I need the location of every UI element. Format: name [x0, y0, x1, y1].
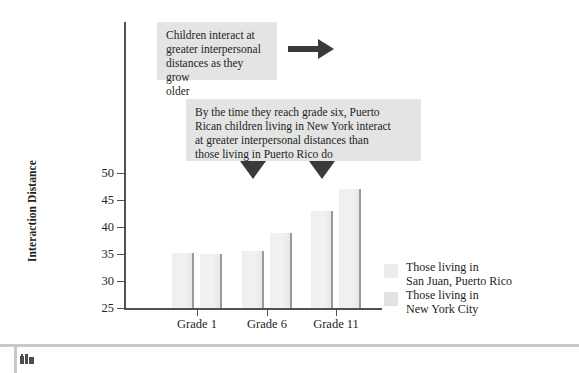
legend-item-san-juan: Those living in San Juan, Puerto Rico — [384, 262, 534, 288]
bar-grade1-san-juan — [172, 253, 194, 308]
page-canvas: Interaction Distance 50 45 40 35 30 25 — [0, 0, 579, 373]
chart-legend: Those living in San Juan, Puerto Rico Th… — [384, 262, 534, 318]
x-tick-mark — [267, 310, 268, 316]
frame-divider-horizontal — [0, 344, 579, 347]
callout-line: greater interpersonal — [166, 42, 269, 56]
y-tick-label: 50 — [88, 167, 114, 179]
callout-line: distances as they grow — [166, 56, 269, 84]
y-tick-mark — [117, 173, 124, 174]
x-tick-label-grade-11: Grade 11 — [296, 317, 376, 332]
callout-box-growth: Children interact at greater interperson… — [157, 22, 277, 80]
y-tick-mark — [117, 227, 124, 228]
callout-box-grade-six: By the time they reach grade six, Puerto… — [186, 99, 421, 161]
bar-grade11-new-york — [339, 189, 361, 308]
bar-grade11-san-juan — [311, 211, 333, 308]
triangle-down-icon — [240, 161, 266, 179]
callout-line: By the time they reach grade six, Puerto — [195, 105, 413, 119]
y-tick-label-wrap: 25 — [88, 302, 114, 314]
y-tick-label: 25 — [88, 302, 114, 314]
frame-divider-vertical — [14, 344, 17, 373]
x-tick-label-grade-6: Grade 6 — [227, 317, 307, 332]
arrow-right-icon — [288, 38, 336, 64]
bar-grade6-new-york — [270, 233, 292, 308]
y-axis-line — [124, 22, 126, 310]
y-tick-label-wrap: 50 — [88, 167, 114, 179]
x-axis-line — [124, 308, 382, 310]
y-tick-label: 30 — [88, 275, 114, 287]
legend-swatch-new-york — [384, 292, 398, 306]
y-tick-label-wrap: 30 — [88, 275, 114, 287]
legend-item-new-york: Those living in New York City — [384, 290, 534, 316]
y-axis-title: Interaction Distance — [26, 146, 38, 276]
y-tick-label: 35 — [88, 248, 114, 260]
y-tick-label: 40 — [88, 221, 114, 233]
callout-line: those living in Puerto Rico do — [195, 147, 413, 161]
bar-grade6-san-juan — [242, 251, 264, 308]
callout-line: at greater interpersonal distances than — [195, 133, 413, 147]
triangle-down-icon — [309, 161, 335, 179]
callout-line: Rican children living in New York intera… — [195, 119, 413, 133]
x-tick-mark — [336, 310, 337, 316]
y-tick-label: 45 — [88, 194, 114, 206]
y-tick-mark — [117, 281, 124, 282]
y-tick-label-wrap: 40 — [88, 221, 114, 233]
callout-line: older — [166, 84, 269, 98]
bar-chart: Interaction Distance 50 45 40 35 30 25 — [0, 0, 579, 344]
legend-swatch-san-juan — [384, 264, 398, 278]
x-tick-label-grade-1: Grade 1 — [157, 317, 237, 332]
legend-label-new-york: Those living in New York City — [406, 289, 479, 316]
y-tick-label-wrap: 35 — [88, 248, 114, 260]
bar-grade1-new-york — [200, 254, 222, 308]
y-tick-mark — [117, 200, 124, 201]
y-tick-mark — [117, 308, 124, 309]
y-tick-label-wrap: 45 — [88, 194, 114, 206]
legend-label-san-juan: Those living in San Juan, Puerto Rico — [406, 261, 512, 288]
x-tick-mark — [197, 310, 198, 316]
thumbnail-icon — [18, 352, 37, 368]
y-tick-mark — [117, 254, 124, 255]
callout-line: Children interact at — [166, 28, 269, 42]
